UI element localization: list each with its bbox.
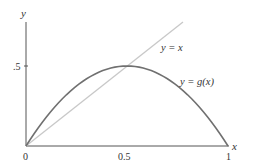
- x-axis-label: x: [231, 140, 237, 152]
- y-tick-label-half: .5: [13, 61, 21, 72]
- line-annotation: y = x: [160, 42, 183, 53]
- y-axis-label: y: [20, 7, 26, 19]
- series-y-equals-x: [26, 22, 183, 146]
- x-tick-label-0: 0: [23, 151, 28, 162]
- curve-annotation: y = g(x): [179, 76, 214, 88]
- x-tick-label-half: 0.5: [118, 151, 131, 162]
- x-tick-label-1: 1: [226, 151, 231, 162]
- chart-canvas: y x 0 0.5 1 .5 y = x y = g(x): [0, 0, 253, 165]
